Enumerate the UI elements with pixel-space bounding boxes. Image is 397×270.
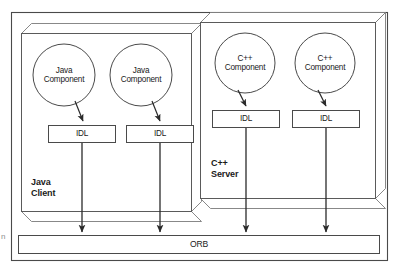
java-client-top-face: [22, 24, 202, 34]
margin-caption-fragment: n: [1, 232, 8, 243]
java-client-bottom-face: [22, 212, 202, 222]
cpp-component-1-line1: C++: [238, 54, 253, 63]
idl-cpp-2-label: IDL: [320, 114, 332, 123]
java-component-2-line2: Component: [121, 75, 162, 84]
java-component-1-line2: Component: [44, 75, 85, 84]
java-component-1-label: Java Component: [44, 66, 85, 84]
diagram-vector-layer: [0, 0, 397, 270]
cpp-server-zone-label: C++ Server: [211, 158, 238, 180]
java-client-label-line2: Client: [31, 188, 55, 198]
cpp-server-top-face: [201, 13, 386, 23]
java-client-zone-label: Java Client: [31, 177, 55, 199]
diagram-canvas: Java Component Java Component C++ Compon…: [0, 0, 397, 270]
cpp-server-label-line1: C++: [211, 158, 228, 168]
java-client-label-line1: Java: [31, 177, 51, 187]
cpp-component-2-line1: C++: [318, 54, 333, 63]
cpp-server-right-face: [376, 13, 386, 199]
idl-java-2-label: IDL: [154, 129, 166, 138]
java-component-2-line1: Java: [133, 66, 150, 75]
cpp-component-2-line2: Component: [305, 63, 346, 72]
cpp-component-1-label: C++ Component: [225, 54, 266, 72]
java-component-1-line1: Java: [56, 66, 73, 75]
idl-java-1-label: IDL: [76, 129, 88, 138]
java-component-2-label: Java Component: [121, 66, 162, 84]
idl-cpp-1-label: IDL: [240, 114, 252, 123]
cpp-component-1-line2: Component: [225, 63, 266, 72]
orb-bus-label: ORB: [190, 240, 208, 250]
cpp-server-label-line2: Server: [211, 169, 238, 179]
cpp-component-2-label: C++ Component: [305, 54, 346, 72]
cpp-server-bottom-face: [201, 199, 386, 209]
